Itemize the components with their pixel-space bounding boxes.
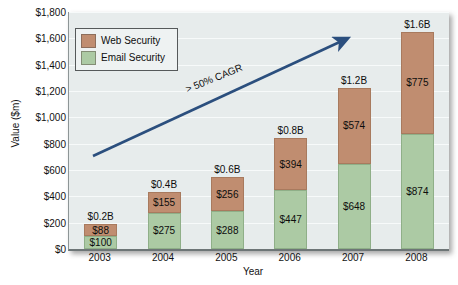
bar-total-label: $1.6B — [387, 19, 448, 30]
bar-total-label: $0.8B — [260, 125, 321, 136]
bar-group: $0.6B$256$288 — [211, 177, 244, 249]
y-tick-label: $400 — [14, 191, 66, 202]
bar-group: $0.2B$88$100 — [84, 224, 117, 249]
x-tick-label: 2007 — [342, 252, 364, 263]
x-tick-label: 2004 — [152, 252, 174, 263]
bar-group: $1.2B$574$648 — [338, 88, 371, 249]
bar-segment-label: $775 — [406, 77, 428, 88]
bar-segment-email-security: $447 — [274, 190, 307, 249]
bar-total-label: $1.2B — [324, 75, 385, 86]
x-axis-title: Year — [58, 266, 448, 277]
y-tick-label: $200 — [14, 217, 66, 228]
bar-total-label: $0.4B — [134, 179, 195, 190]
bar-total-label: $0.2B — [70, 211, 131, 222]
y-tick-label: $1,200 — [14, 86, 66, 97]
bar-segment-label: $155 — [153, 197, 175, 208]
bar-group: $0.4B$155$275 — [148, 192, 181, 249]
bar-segment-label: $100 — [90, 237, 112, 248]
bar-segment-label: $275 — [153, 225, 175, 236]
legend-label-web-security: Web Security — [101, 35, 160, 46]
y-tick-label: $1,600 — [14, 33, 66, 44]
y-tick-label: $0 — [14, 244, 66, 255]
bar-segment-web-security: $574 — [338, 88, 371, 164]
y-tick-label: $1,800 — [14, 7, 66, 18]
bar-segment-label: $256 — [216, 189, 238, 200]
legend-item-web-security: Web Security — [81, 32, 172, 49]
bar-segment-label: $394 — [280, 159, 302, 170]
bar-segment-email-security: $874 — [401, 134, 434, 249]
legend-swatch-web-security — [81, 34, 96, 48]
y-tick-label: $800 — [14, 138, 66, 149]
stacked-bar-chart: Value ($m) $0$200$400$600$800$1,000$1,20… — [0, 0, 458, 285]
bar-group: $1.6B$775$874 — [401, 32, 434, 249]
x-tick-label: 2008 — [405, 252, 427, 263]
chart-legend: Web Security Email Security — [75, 28, 178, 71]
y-tick-label: $600 — [14, 165, 66, 176]
bar-segment-email-security: $648 — [338, 164, 371, 249]
bar-segment-web-security: $394 — [274, 138, 307, 190]
bar-segment-web-security: $775 — [401, 32, 434, 134]
legend-swatch-email-security — [81, 51, 96, 65]
bar-segment-label: $874 — [406, 186, 428, 197]
bar-segment-email-security: $275 — [148, 213, 181, 249]
bar-group: $0.8B$394$447 — [274, 138, 307, 249]
x-tick-label: 2005 — [215, 252, 237, 263]
y-axis-tick-labels: $0$200$400$600$800$1,000$1,200$1,400$1,6… — [0, 0, 66, 285]
y-tick-label: $1,000 — [14, 112, 66, 123]
bar-segment-email-security: $100 — [84, 236, 117, 249]
x-tick-label: 2003 — [89, 252, 111, 263]
x-tick-label: 2006 — [279, 252, 301, 263]
bar-segment-email-security: $288 — [211, 211, 244, 249]
bar-segment-label: $447 — [280, 214, 302, 225]
bar-segment-web-security: $256 — [211, 177, 244, 211]
y-tick-label: $1,400 — [14, 59, 66, 70]
bar-segment-web-security: $155 — [148, 192, 181, 212]
bar-segment-label: $648 — [343, 201, 365, 212]
legend-label-email-security: Email Security — [101, 52, 165, 63]
bar-segment-label: $288 — [216, 225, 238, 236]
legend-item-email-security: Email Security — [81, 49, 172, 66]
bar-segment-label: $88 — [92, 225, 109, 236]
bar-total-label: $0.6B — [197, 164, 258, 175]
bar-segment-web-security: $88 — [84, 224, 117, 236]
bar-segment-label: $574 — [343, 120, 365, 131]
